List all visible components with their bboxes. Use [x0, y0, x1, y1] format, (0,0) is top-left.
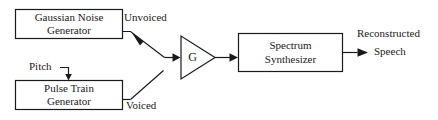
speech-synthesis-diagram: Gaussian Noise Generator Pulse Train Gen…	[0, 0, 438, 120]
unvoiced-branch	[123, 32, 165, 58]
gain-to-synthesizer-wire	[215, 53, 238, 62]
output-label-line1: Reconstructed	[357, 27, 420, 39]
block-pulse-train-generator: Pulse Train Generator	[16, 81, 123, 110]
pitch-input-arrow	[60, 68, 72, 81]
output-arrow	[343, 48, 369, 57]
gain-amplifier: G	[181, 36, 215, 79]
gain-triangle-shape	[181, 36, 215, 79]
spectrum-synthesizer-label-line1: Spectrum	[269, 39, 312, 51]
pulse-train-generator-label-line1: Pulse Train	[44, 82, 94, 94]
gaussian-noise-generator-label-line1: Gaussian Noise	[35, 11, 104, 23]
excitation-to-gain-wire	[165, 53, 181, 61]
pitch-arrowhead-icon	[65, 74, 72, 81]
gaussian-noise-generator-label-line2: Generator	[47, 24, 91, 36]
spectrum-synthesizer-label-line2: Synthesizer	[265, 53, 317, 65]
voiced-open-blade	[131, 71, 164, 100]
pitch-label: Pitch	[29, 60, 52, 72]
pulse-train-generator-label-line2: Generator	[47, 95, 91, 107]
unvoiced-wire	[123, 32, 165, 58]
synthesizer-input-arrowhead-icon	[230, 53, 239, 62]
unvoiced-arrowhead-icon	[132, 32, 144, 45]
output-label-line2: Speech	[374, 45, 406, 57]
voiced-label: Voiced	[126, 99, 157, 111]
diagram-canvas: Gaussian Noise Generator Pulse Train Gen…	[0, 0, 438, 120]
gain-symbol-label: G	[188, 50, 197, 64]
gain-input-arrowhead-icon	[173, 53, 181, 61]
block-spectrum-synthesizer: Spectrum Synthesizer	[239, 34, 343, 72]
output-arrowhead-icon	[358, 48, 369, 57]
voiced-branch	[123, 71, 164, 100]
unvoiced-label: Unvoiced	[124, 11, 167, 23]
block-gaussian-noise-generator: Gaussian Noise Generator	[16, 10, 123, 39]
